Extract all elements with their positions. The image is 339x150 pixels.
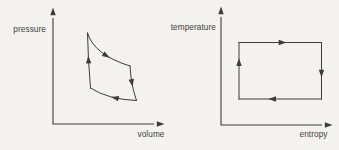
ts-y-axis-label: temperature (171, 23, 217, 32)
pv-upper-isotherm (88, 33, 131, 66)
ts-axes (221, 17, 322, 125)
pv-right-adiabat-arrow-icon (129, 79, 136, 88)
ts-right-isentrope-arrow-icon (319, 70, 324, 78)
pv-left-adiabat-arrow-icon (86, 56, 92, 64)
ts-y-axis-arrow-icon (218, 7, 223, 15)
thermodynamic-cycles-canvas: pressurevolumetemperatureentropy (0, 0, 339, 150)
pv-x-axis-arrow-icon (157, 121, 165, 126)
ts-x-axis-arrow-icon (325, 122, 333, 127)
scanned-diagram-page: pressurevolumetemperatureentropy (0, 0, 339, 150)
pv-y-axis-label: pressure (13, 25, 46, 34)
ts-top-isotherm-arrow-icon (279, 40, 287, 45)
pv-lower-isotherm-arrow-icon (110, 94, 119, 101)
pv-y-axis-arrow-icon (50, 8, 55, 16)
ts-diagram: temperatureentropy (171, 7, 333, 140)
ts-x-axis-label: entropy (299, 130, 328, 139)
pv-x-axis-label: volume (138, 130, 165, 139)
pv-diagram: pressurevolume (13, 8, 164, 140)
pv-upper-isotherm-arrow-icon (102, 51, 111, 60)
pv-axes (53, 18, 154, 124)
pv-lower-isotherm (91, 88, 137, 101)
ts-bottom-isotherm-arrow-icon (268, 96, 276, 101)
ts-left-isentrope-arrow-icon (236, 58, 241, 66)
